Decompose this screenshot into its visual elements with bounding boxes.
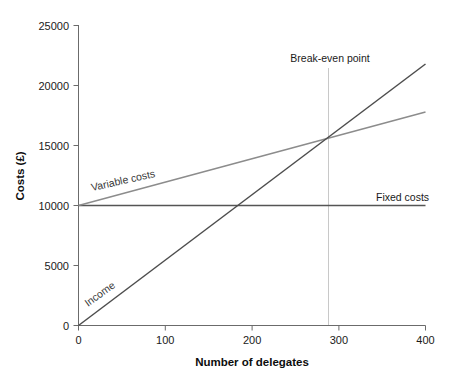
y-tick-label-20000: 20000 <box>38 80 69 92</box>
x-tick-label-100: 100 <box>156 334 174 346</box>
y-tick-label-25000: 25000 <box>38 20 69 32</box>
x-tick-label-0: 0 <box>75 334 81 346</box>
break-even-chart: 25000 20000 15000 10000 5000 0 0 100 200… <box>0 0 453 386</box>
y-tick-label-0: 0 <box>63 320 69 332</box>
x-tick-label-200: 200 <box>243 334 261 346</box>
chart-canvas: 25000 20000 15000 10000 5000 0 0 100 200… <box>0 0 453 386</box>
annotation-break-even-point: Break-even point <box>290 52 369 64</box>
x-tick-label-400: 400 <box>416 334 434 346</box>
series-label-fixed-costs: Fixed costs <box>376 191 429 203</box>
x-tick-label-300: 300 <box>330 334 348 346</box>
x-axis-title: Number of delegates <box>195 356 309 368</box>
y-tick-label-15000: 15000 <box>38 140 69 152</box>
y-tick-label-5000: 5000 <box>45 260 69 272</box>
y-tick-label-10000: 10000 <box>38 200 69 212</box>
y-axis-title: Costs (£) <box>14 151 26 200</box>
